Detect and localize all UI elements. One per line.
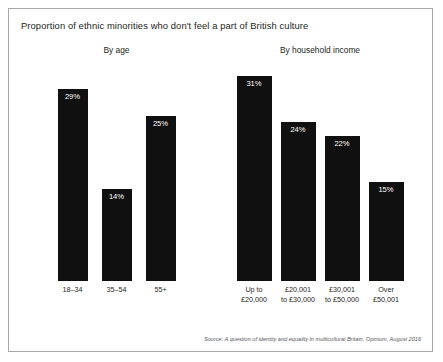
category-label-line2: £50,001: [369, 295, 404, 305]
category-axis-by-household-income: Up to£20,000£20,001to £30,000£30,001to £…: [214, 285, 426, 304]
bar-slot: 31%: [237, 63, 272, 281]
panel-title-by-household-income: By household income: [214, 45, 426, 55]
bar[interactable]: 14%: [102, 189, 132, 281]
category-label-line2: to £50,000: [325, 295, 360, 305]
category-label-line1: Up to: [237, 285, 272, 295]
bar-slot: 25%: [146, 63, 176, 281]
bar[interactable]: 31%: [237, 76, 272, 281]
bar-slot: 14%: [102, 63, 132, 281]
bar-value-label: 22%: [325, 139, 360, 148]
bar-slot: 29%: [58, 63, 88, 281]
bar[interactable]: 22%: [325, 136, 360, 281]
category-label-line1: 35–54: [102, 285, 132, 295]
category-label-line1: 18–34: [58, 285, 88, 295]
category-label-line1: Over: [369, 285, 404, 295]
bar-slot: 22%: [325, 63, 360, 281]
plot-by-age: 29%14%25%: [19, 63, 214, 281]
bar-slot: 15%: [369, 63, 404, 281]
bar[interactable]: 29%: [58, 89, 88, 281]
category-label: 35–54: [102, 285, 132, 295]
category-label-line1: 55+: [146, 285, 176, 295]
panel-title-by-age: By age: [19, 45, 214, 55]
chart-figure: Proportion of ethnic minorities who don'…: [8, 8, 433, 352]
bar[interactable]: 25%: [146, 116, 176, 281]
bar-group-by-household-income: 31%24%22%15%: [214, 63, 426, 281]
category-label: £30,001to £50,000: [325, 285, 360, 304]
panel-by-household-income: By household income 31%24%22%15% Up to£2…: [214, 45, 426, 335]
category-label-line2: £20,000: [237, 295, 272, 305]
plot-by-household-income: 31%24%22%15%: [214, 63, 426, 281]
bar-value-label: 14%: [102, 192, 132, 201]
category-label: £20,001to £30,000: [281, 285, 316, 304]
bar-value-label: 31%: [237, 79, 272, 88]
category-label-line1: £20,001: [281, 285, 316, 295]
category-label: 55+: [146, 285, 176, 295]
category-label: Up to£20,000: [237, 285, 272, 304]
bar[interactable]: 15%: [369, 182, 404, 281]
page-title: Proportion of ethnic minorities who don'…: [21, 20, 308, 31]
bar-slot: 24%: [281, 63, 316, 281]
panel-by-age: By age 29%14%25% 18–3435–5455+: [19, 45, 214, 335]
category-label-line2: to £30,000: [281, 295, 316, 305]
bar-group-by-age: 29%14%25%: [19, 63, 214, 281]
bar-value-label: 29%: [58, 92, 88, 101]
bar-value-label: 25%: [146, 119, 176, 128]
bar[interactable]: 24%: [281, 122, 316, 281]
category-label: Over£50,001: [369, 285, 404, 304]
category-label-line1: £30,001: [325, 285, 360, 295]
bar-value-label: 15%: [369, 185, 404, 194]
category-label: 18–34: [58, 285, 88, 295]
category-axis-by-age: 18–3435–5455+: [19, 285, 214, 295]
bar-value-label: 24%: [281, 125, 316, 134]
source-note: Source: A question of identity and equal…: [204, 336, 421, 342]
